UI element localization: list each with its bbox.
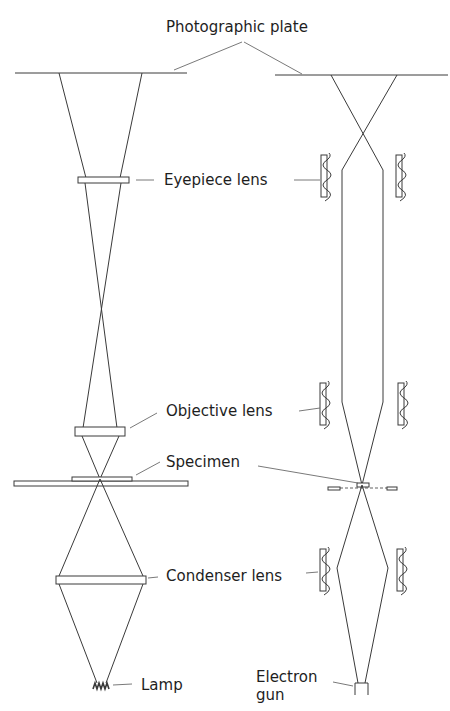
- label-lamp: Lamp: [141, 676, 183, 694]
- leader-line: [136, 462, 160, 475]
- coil-icon: [320, 381, 330, 429]
- label-objective-lens: Objective lens: [166, 402, 273, 420]
- ray: [362, 402, 383, 485]
- ray: [59, 73, 86, 178]
- ray: [365, 568, 388, 683]
- left-condenser-lens: [56, 576, 146, 584]
- electron-gun-icon: [355, 683, 368, 695]
- leader-line: [306, 572, 318, 573]
- leader-line: [299, 408, 320, 411]
- label-photographic-plate: Photographic plate: [166, 18, 308, 36]
- label-eyepiece-lens: Eyepiece lens: [164, 171, 268, 189]
- left-objective-lens: [75, 427, 125, 436]
- ray: [342, 75, 397, 170]
- leader-line: [113, 684, 132, 685]
- label-specimen: Specimen: [166, 453, 240, 471]
- leader-line: [258, 466, 358, 483]
- right-specimen-holder-right: [387, 487, 397, 490]
- ray: [59, 584, 97, 683]
- ray: [362, 485, 388, 568]
- coil-icon: [398, 381, 408, 429]
- label-electron-gun-line2: gun: [256, 686, 285, 704]
- electron-microscope: [275, 75, 448, 695]
- right-specimen: [357, 483, 369, 487]
- leader-line: [148, 577, 158, 578]
- ray: [120, 73, 142, 178]
- coil-icon: [396, 153, 406, 201]
- coil-icon: [321, 153, 331, 201]
- ray: [82, 436, 100, 479]
- ray: [83, 183, 121, 428]
- right-specimen-holder-left: [328, 487, 340, 490]
- leader-line: [244, 42, 302, 74]
- label-electron-gun-line1: Electron: [256, 668, 318, 686]
- leader-line: [130, 413, 157, 428]
- leader-line: [174, 42, 242, 70]
- leader-line: [333, 682, 353, 686]
- label-condenser-lens: Condenser lens: [166, 567, 282, 585]
- coil-icon: [320, 547, 330, 595]
- ray: [337, 568, 358, 683]
- left-specimen: [72, 477, 132, 481]
- lamp-filament-icon: [93, 683, 109, 689]
- ray: [331, 75, 383, 170]
- ray: [100, 479, 143, 576]
- microscope-diagram: Photographic plate Eyepiece lens Objecti…: [0, 0, 450, 711]
- ray: [59, 479, 100, 576]
- ray: [85, 183, 117, 428]
- coil-icon: [397, 547, 407, 595]
- ray: [100, 436, 119, 479]
- ray: [106, 584, 143, 683]
- left-eyepiece-lens: [78, 177, 129, 183]
- ray: [337, 485, 362, 568]
- light-microscope: [14, 73, 188, 689]
- ray: [342, 402, 362, 485]
